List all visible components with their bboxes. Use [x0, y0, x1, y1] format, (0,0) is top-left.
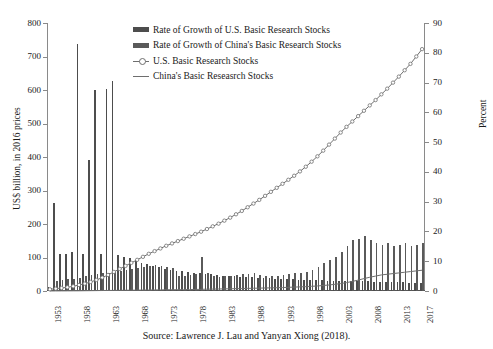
- legend-line-circle-icon: [133, 54, 150, 68]
- line-marker-us-stocks: [292, 174, 295, 177]
- y-axis-left-tick-label: 200: [5, 220, 41, 229]
- y-axis-left-tick-label: 300: [5, 186, 41, 195]
- line-marker-us-stocks: [147, 252, 150, 255]
- x-axis-tick-labels: 1953195819631968197319781983198819931998…: [47, 293, 425, 327]
- y-axis-right-tick: [425, 202, 429, 203]
- legend-item[interactable]: Rate of Growth of U.S. Basic Research St…: [133, 23, 341, 37]
- legend-item[interactable]: Rate of Growth of China's Basic Research…: [133, 39, 341, 53]
- line-us-stocks: [50, 49, 422, 289]
- line-marker-us-stocks: [223, 219, 226, 222]
- line-marker-us-stocks: [101, 276, 104, 279]
- line-marker-us-stocks: [124, 264, 127, 267]
- line-marker-us-stocks: [391, 81, 394, 84]
- legend-item-label: China's Basic Reseasrch Stocks: [153, 71, 273, 82]
- line-marker-us-stocks: [170, 242, 173, 245]
- y-axis-right-tick-label: 0: [433, 287, 438, 296]
- legend-item-label: U.S. Basic Research Stocks: [153, 56, 258, 67]
- line-marker-us-stocks: [275, 186, 278, 189]
- y-axis-right-tick-label: 60: [433, 108, 442, 117]
- line-marker-us-stocks: [304, 165, 307, 168]
- y-axis-right-tick: [425, 231, 429, 232]
- y-axis-left-tick-label: 700: [5, 52, 41, 61]
- line-marker-us-stocks: [415, 55, 418, 58]
- y-axis-right-tick: [425, 83, 429, 84]
- y-axis-left-tick: [43, 291, 47, 292]
- line-marker-us-stocks: [281, 182, 284, 185]
- line-marker-us-stocks: [66, 286, 69, 289]
- line-marker-us-stocks: [234, 213, 237, 216]
- legend-bar-swatch: [133, 43, 149, 48]
- line-marker-us-stocks: [386, 87, 389, 90]
- line-marker-us-stocks: [310, 160, 313, 163]
- y-axis-right-tick: [425, 23, 429, 24]
- legend-item[interactable]: China's Basic Reseasrch Stocks: [133, 70, 341, 84]
- line-marker-us-stocks: [374, 98, 377, 101]
- line-marker-us-stocks: [135, 258, 138, 261]
- line-marker-us-stocks: [420, 47, 423, 50]
- line-marker-us-stocks: [77, 283, 80, 286]
- line-marker-us-stocks: [199, 230, 202, 233]
- line-marker-us-stocks: [362, 109, 365, 112]
- line-marker-us-stocks: [269, 190, 272, 193]
- line-marker-us-stocks: [188, 235, 191, 238]
- legend-swatch-icon: [133, 39, 150, 53]
- line-china-stocks: [50, 270, 422, 291]
- x-axis-tick-label: 2013: [403, 306, 412, 323]
- legend-item[interactable]: U.S. Basic Research Stocks: [133, 54, 341, 68]
- line-marker-us-stocks: [351, 120, 354, 123]
- line-marker-us-stocks: [316, 155, 319, 158]
- x-axis-tick-label: 2008: [374, 306, 383, 323]
- line-marker-us-stocks: [263, 194, 266, 197]
- y-axis-right-tick: [425, 172, 429, 173]
- x-axis-tick-label: 1983: [228, 306, 237, 323]
- line-marker-us-stocks: [228, 216, 231, 219]
- y-axis-right-tick: [425, 291, 429, 292]
- y-axis-left-tick-label: 100: [5, 253, 41, 262]
- x-axis-tick-label: 1993: [287, 306, 296, 323]
- line-marker-us-stocks: [356, 114, 359, 117]
- line-marker-us-stocks: [322, 149, 325, 152]
- line-marker-us-stocks: [211, 225, 214, 228]
- line-marker-us-stocks: [403, 69, 406, 72]
- x-axis-tick-label: 2003: [345, 306, 354, 323]
- x-axis-tick-label: 2017: [426, 306, 435, 323]
- legend-bar-swatch: [133, 27, 149, 32]
- line-marker-us-stocks: [397, 75, 400, 78]
- line-marker-us-stocks: [182, 237, 185, 240]
- y-axis-right-tick-label: 80: [433, 48, 442, 57]
- line-marker-us-stocks: [54, 287, 57, 290]
- legend-open-circle-icon: [139, 58, 146, 65]
- line-marker-us-stocks: [130, 261, 133, 264]
- line-marker-us-stocks: [159, 247, 162, 250]
- x-axis-tick-label: 1988: [257, 306, 266, 323]
- legend-line-icon: [133, 70, 150, 84]
- line-marker-us-stocks: [71, 285, 74, 288]
- y-axis-right-tick: [425, 261, 429, 262]
- y-axis-right-tick-label: 90: [433, 19, 442, 28]
- line-marker-us-stocks: [258, 198, 261, 201]
- line-marker-us-stocks: [409, 62, 412, 65]
- line-marker-us-stocks: [153, 249, 156, 252]
- x-axis-tick-label: 1968: [141, 306, 150, 323]
- line-marker-us-stocks: [327, 143, 330, 146]
- line-marker-us-stocks: [205, 227, 208, 230]
- line-marker-us-stocks: [141, 255, 144, 258]
- y-axis-right-tick-label: 10: [433, 257, 442, 266]
- y-axis-right-tick-label: 40: [433, 167, 442, 176]
- line-marker-us-stocks: [380, 93, 383, 96]
- x-axis-tick-label: 1973: [170, 306, 179, 323]
- legend-item-label: Rate of Growth of China's Basic Research…: [153, 40, 341, 51]
- line-marker-us-stocks: [339, 131, 342, 134]
- y-axis-right-tick-label: 50: [433, 138, 442, 147]
- legend-line-segment: [133, 76, 149, 77]
- x-axis-tick-label: 1978: [199, 306, 208, 323]
- y-axis-right-tick: [425, 112, 429, 113]
- y-axis-right-title: Percent: [478, 100, 488, 129]
- source-note: Source: Lawrence J. Lau and Yanyan Xiong…: [0, 330, 493, 341]
- x-axis-tick-label: 1958: [83, 306, 92, 323]
- line-marker-us-stocks: [333, 137, 336, 140]
- line-marker-us-stocks: [83, 282, 86, 285]
- line-marker-us-stocks: [106, 273, 109, 276]
- line-marker-us-stocks: [48, 288, 51, 291]
- line-marker-us-stocks: [345, 125, 348, 128]
